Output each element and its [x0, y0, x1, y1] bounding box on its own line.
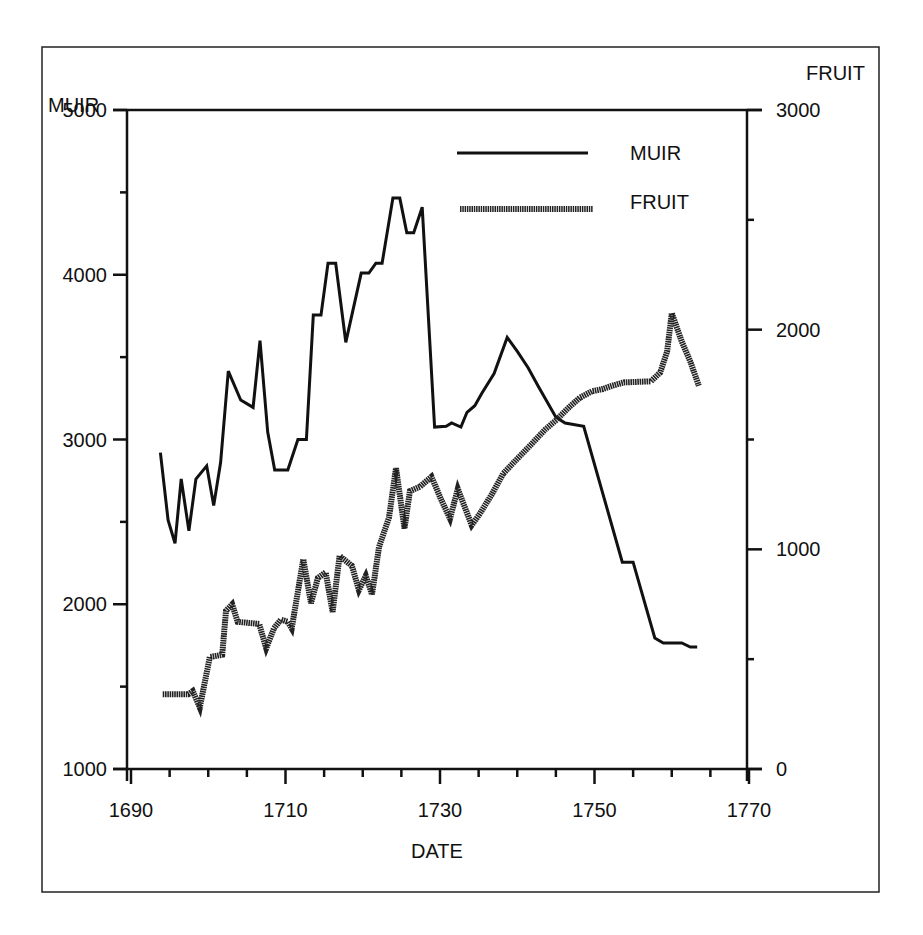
left-tick-label: 1000	[63, 758, 108, 780]
x-tick-label: 1690	[109, 799, 154, 821]
axes: 1000200030004000500001000200030001690171…	[63, 99, 821, 821]
left-tick-label: 2000	[63, 593, 108, 615]
chart-container: MUIR FRUIT DATE 100020003000400050000100…	[0, 0, 923, 935]
right-axis-title: FRUIT	[806, 62, 865, 84]
right-tick-label: 1000	[776, 538, 821, 560]
left-tick-label: 4000	[63, 264, 108, 286]
x-tick-label: 1750	[572, 799, 617, 821]
x-tick-label: 1730	[418, 799, 463, 821]
x-axis-title: DATE	[411, 840, 463, 862]
x-tick-label: 1770	[727, 799, 772, 821]
right-tick-label: 2000	[776, 319, 821, 341]
series-line-muir	[160, 198, 697, 647]
chart-canvas: MUIR FRUIT DATE 100020003000400050000100…	[0, 0, 923, 935]
plot-area	[160, 198, 698, 707]
legend-label-muir: MUIR	[630, 142, 681, 164]
legend: MUIR FRUIT	[457, 142, 689, 213]
left-tick-label: 3000	[63, 429, 108, 451]
right-tick-label: 3000	[776, 99, 821, 121]
right-tick-label: 0	[776, 758, 787, 780]
legend-label-fruit: FRUIT	[630, 191, 689, 213]
figure-frame	[42, 47, 879, 892]
left-tick-label: 5000	[63, 99, 108, 121]
x-tick-label: 1710	[263, 799, 308, 821]
